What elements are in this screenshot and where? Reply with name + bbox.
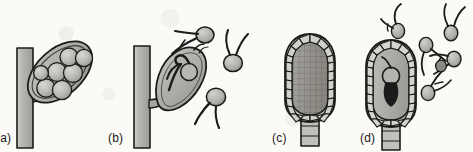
panel-a-drawing <box>0 0 110 152</box>
panel-c: (c) <box>265 0 365 152</box>
panel-c-drawing <box>265 0 365 152</box>
panel-b-drawing <box>106 0 256 152</box>
panel-b: (b) <box>106 0 256 152</box>
sporangium-core-c <box>292 42 328 115</box>
panel-d-drawing <box>355 0 473 152</box>
panel-d: (d) <box>355 0 473 152</box>
panel-a-label: (a) <box>0 131 11 145</box>
panel-a: (a) <box>0 0 110 152</box>
hypha-b <box>134 46 150 148</box>
wall-cells-base-d <box>371 119 411 127</box>
hypha-a <box>17 48 33 148</box>
zoospore-d-5 <box>421 70 451 101</box>
zoospore-d-6 <box>436 60 447 72</box>
zoospore-d-2 <box>444 4 465 41</box>
zoospore-b-3 <box>195 88 226 128</box>
sporangium-figure: (a) <box>0 0 473 152</box>
panel-c-label: (c) <box>272 131 287 145</box>
wall-cells-base-c <box>290 114 330 122</box>
panel-b-label: (b) <box>108 131 123 145</box>
sporangium-b <box>156 47 206 110</box>
panel-d-label: (d) <box>360 131 375 145</box>
zoospore-d-1 <box>381 4 405 39</box>
zoospore-b-2 <box>224 30 248 72</box>
